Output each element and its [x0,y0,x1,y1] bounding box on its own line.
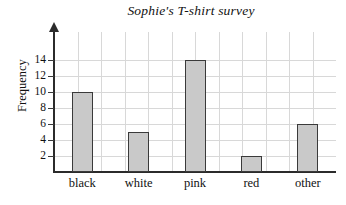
y-axis-tick-label: 8 [0,102,46,113]
gridline-vertical [266,32,267,172]
gridline-vertical [219,32,220,172]
x-axis-label-black: black [54,176,110,190]
y-axis-tick-label: 2 [0,150,46,161]
bar-pink [185,60,206,172]
y-axis-line [53,30,55,173]
x-axis-label-other: other [280,176,336,190]
y-axis-tick-mark [48,108,54,109]
bar-white [128,132,149,172]
x-axis-label-white: white [110,176,166,190]
y-axis-tick-mark [48,60,54,61]
y-axis-tick-mark [48,92,54,93]
y-axis-tick-mark [48,124,54,125]
gridline-vertical [101,32,102,172]
gridline-vertical [242,32,243,172]
y-axis-tick-mark [48,156,54,157]
chart-title: Sophie's T-shirt survey [96,3,286,19]
gridline-vertical [289,32,290,172]
y-axis-tick-label: 6 [0,118,46,129]
y-axis-tick-mark [48,76,54,77]
bar-black [72,92,93,172]
y-axis-tick-label: 10 [0,86,46,97]
bar-chart: Sophie's T-shirt survey Frequency 246810… [0,0,346,205]
y-axis-tick-label: 14 [0,54,46,65]
bar-red [241,156,262,172]
bar-other [297,124,318,172]
gridline-vertical [125,32,126,172]
x-axis-label-red: red [223,176,279,190]
gridline-vertical [172,32,173,172]
y-axis-arrow-icon [49,22,59,32]
y-axis-tick-label: 4 [0,134,46,145]
x-axis-label-pink: pink [167,176,223,190]
y-axis-tick-label: 12 [0,70,46,81]
y-axis-tick-mark [48,140,54,141]
y-axis-tick-labels: 2468101214 [0,0,46,205]
